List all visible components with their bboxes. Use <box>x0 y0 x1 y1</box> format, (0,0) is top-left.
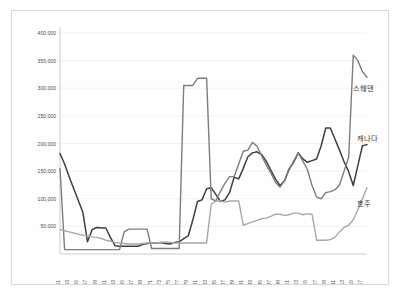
x-axis-tick-label: 1973 <box>156 280 162 284</box>
x-axis-tick-label: 2011 <box>330 280 336 284</box>
x-axis-tick-label: 1985 <box>211 280 217 284</box>
x-axis-tick-label: 1999 <box>275 280 281 284</box>
chart-container: 400,000350,000300,000250,000200,000150,0… <box>0 0 400 294</box>
x-axis-tick-label: 1979 <box>183 280 189 284</box>
y-axis-tick-label: 100,000 <box>38 196 57 202</box>
y-axis-tick-label: 400,000 <box>38 30 57 36</box>
x-axis-tick-label: 2015 <box>348 280 354 284</box>
x-axis-tick-label: 1965 <box>119 280 125 284</box>
x-axis-tick-label: 2003 <box>293 280 299 284</box>
axes-group <box>60 27 367 254</box>
series-annotation-1: 캐나다 <box>357 134 378 143</box>
y-axis-tick-label: 350,000 <box>38 58 57 64</box>
x-axis-tick-label: 1955 <box>73 280 79 284</box>
series-line-1 <box>60 55 367 249</box>
y-axis-labels-group: 400,000350,000300,000250,000200,000150,0… <box>38 30 57 229</box>
x-axis-tick-label: 1987 <box>220 280 226 284</box>
gridlines-group <box>60 33 367 226</box>
x-axis-tick-label: 1951 <box>55 280 61 284</box>
x-axis-tick-label: 2013 <box>339 280 345 284</box>
x-axis-tick-label: 1977 <box>174 280 180 284</box>
series-line-0 <box>60 128 367 246</box>
y-axis-tick-label: 150,000 <box>38 168 57 174</box>
x-axis-tick-label: 1983 <box>202 280 208 284</box>
chart-plot-frame: 400,000350,000300,000250,000200,000150,0… <box>11 10 389 285</box>
x-axis-tick-label: 1989 <box>229 280 235 284</box>
series-annotation-2: 호주 <box>357 199 371 208</box>
series-line-2 <box>60 188 367 244</box>
x-axis-tick-label: 1995 <box>257 280 263 284</box>
x-axis-labels-group: 1951195319551957195919611963196519671969… <box>55 280 363 284</box>
x-axis-tick-label: 1975 <box>165 280 171 284</box>
y-axis-tick-label: 250,000 <box>38 113 57 119</box>
series-annotation-0: 스웨덴 <box>353 84 374 93</box>
series-group <box>60 55 367 249</box>
x-axis-tick-label: 1957 <box>82 280 88 284</box>
x-axis-tick-label: 1993 <box>247 280 253 284</box>
y-axis-tick-label: 50,000 <box>40 223 56 229</box>
x-axis-tick-label: 1959 <box>92 280 98 284</box>
x-axis-tick-label: 1967 <box>128 280 134 284</box>
y-axis-tick-label: 300,000 <box>38 85 57 91</box>
y-axis-tick-label: 200,000 <box>38 141 57 147</box>
x-axis-tick-label: 2007 <box>312 280 318 284</box>
x-axis-tick-label: 1963 <box>110 280 116 284</box>
x-axis-tick-label: 2001 <box>284 280 290 284</box>
x-axis-tick-label: 2017 <box>357 280 363 284</box>
x-axis-tick-label: 1991 <box>238 280 244 284</box>
x-axis-tick-label: 1969 <box>137 280 143 284</box>
line-chart-svg: 400,000350,000300,000250,000200,000150,0… <box>12 11 388 284</box>
x-axis-tick-label: 2009 <box>321 280 327 284</box>
x-axis-tick-label: 1971 <box>147 280 153 284</box>
x-axis-tick-label: 1961 <box>101 280 107 284</box>
x-axis-tick-label: 1981 <box>192 280 198 284</box>
x-axis-tick-label: 1953 <box>64 280 70 284</box>
x-axis-tick-label: 2005 <box>302 280 308 284</box>
x-axis-tick-label: 1997 <box>266 280 272 284</box>
